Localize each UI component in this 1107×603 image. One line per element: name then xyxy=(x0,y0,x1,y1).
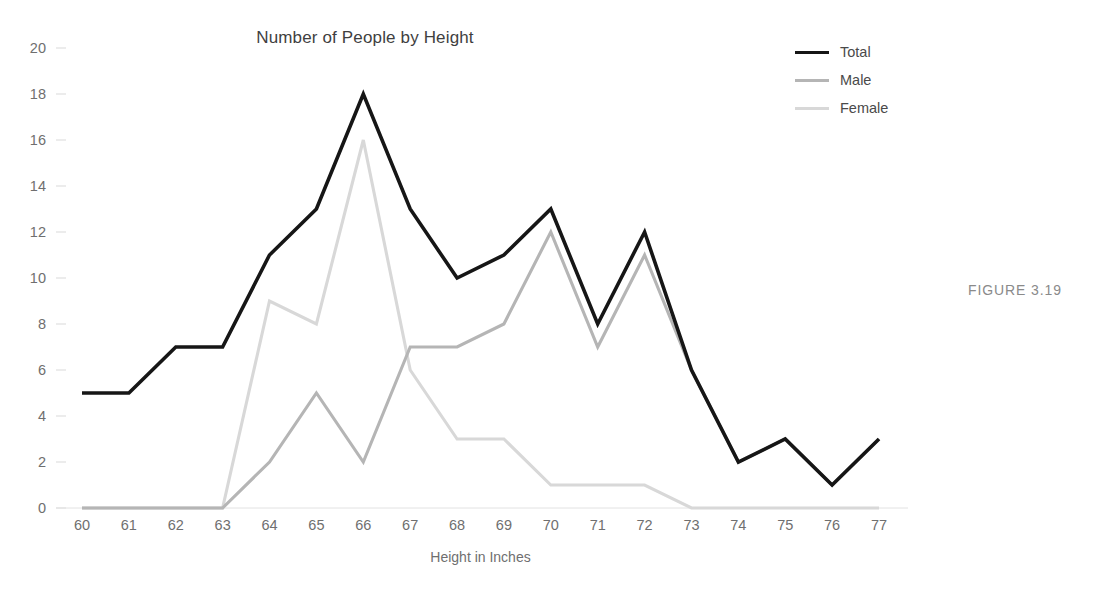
y-axis-tick-group: 02468101214161820 xyxy=(30,40,66,516)
figure-container: Number of People by Height 0246810121416… xyxy=(0,0,1107,603)
figure-caption: FIGURE 3.19 xyxy=(968,282,1062,298)
x-axis-tick-label: 65 xyxy=(308,517,324,533)
series-line-male xyxy=(82,232,879,508)
x-axis-tick-group: 606162636465666768697071727374757677 xyxy=(74,517,887,533)
x-axis-tick-label: 66 xyxy=(355,517,371,533)
x-axis-tick-label: 62 xyxy=(168,517,184,533)
y-axis-tick-label: 16 xyxy=(30,132,46,148)
x-axis-tick-label: 69 xyxy=(496,517,512,533)
x-axis-tick-label: 68 xyxy=(449,517,465,533)
x-axis-tick-label: 70 xyxy=(543,517,559,533)
x-axis-tick-label: 60 xyxy=(74,517,90,533)
x-axis-tick-label: 72 xyxy=(637,517,653,533)
legend-label-total: Total xyxy=(840,44,871,60)
x-axis-tick-label: 67 xyxy=(402,517,418,533)
y-axis-tick-label: 4 xyxy=(38,408,46,424)
line-chart-plot: 02468101214161820 6061626364656667686970… xyxy=(0,0,930,603)
y-axis-tick-label: 6 xyxy=(38,362,46,378)
y-axis-tick-label: 10 xyxy=(30,270,46,286)
series-group xyxy=(82,94,879,508)
x-axis-tick-label: 74 xyxy=(730,517,746,533)
x-axis-title: Height in Inches xyxy=(430,549,530,565)
legend-swatch-male xyxy=(795,79,829,82)
x-axis-tick-label: 64 xyxy=(261,517,277,533)
legend-label-male: Male xyxy=(840,72,871,88)
legend-swatch-female xyxy=(795,107,829,110)
y-axis-tick-label: 12 xyxy=(30,224,46,240)
legend-swatch-total xyxy=(795,51,829,54)
legend-label-female: Female xyxy=(840,100,888,116)
x-axis-tick-label: 71 xyxy=(590,517,606,533)
chart-legend: Total Male Female xyxy=(795,38,945,122)
series-line-total xyxy=(82,94,879,485)
legend-item-male[interactable]: Male xyxy=(795,66,945,94)
y-axis-tick-label: 2 xyxy=(38,454,46,470)
x-axis-tick-label: 75 xyxy=(777,517,793,533)
legend-item-total[interactable]: Total xyxy=(795,38,945,66)
x-axis-tick-label: 73 xyxy=(683,517,699,533)
y-axis-tick-label: 18 xyxy=(30,86,46,102)
y-axis-tick-label: 20 xyxy=(30,40,46,56)
x-axis-tick-label: 61 xyxy=(121,517,137,533)
chart-canvas: Number of People by Height 0246810121416… xyxy=(0,0,930,603)
y-axis-tick-label: 8 xyxy=(38,316,46,332)
x-axis-tick-label: 63 xyxy=(215,517,231,533)
y-axis-tick-label: 0 xyxy=(38,500,46,516)
x-axis-tick-label: 76 xyxy=(824,517,840,533)
x-axis-tick-label: 77 xyxy=(871,517,887,533)
legend-item-female[interactable]: Female xyxy=(795,94,945,122)
y-axis-tick-label: 14 xyxy=(30,178,46,194)
